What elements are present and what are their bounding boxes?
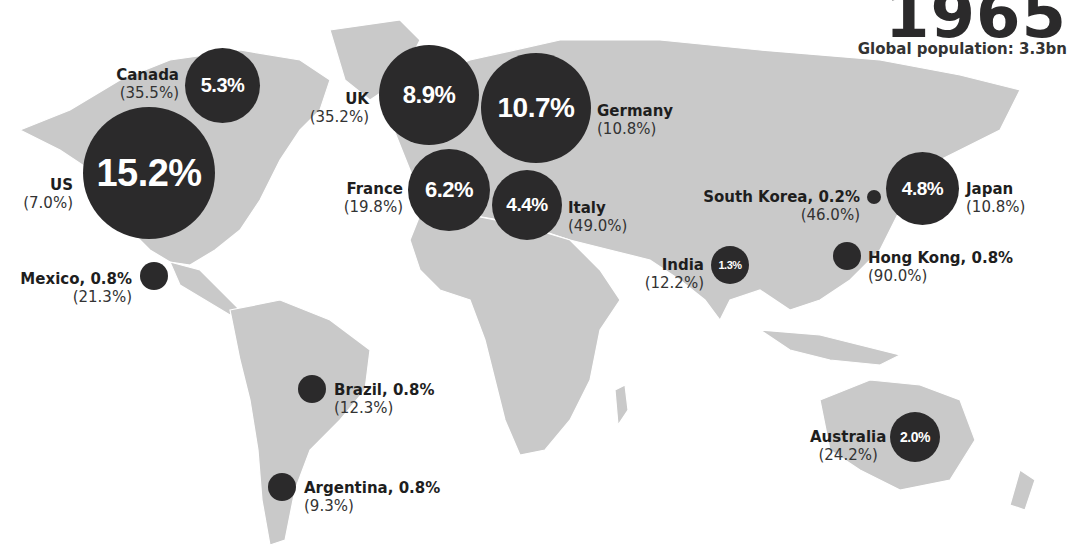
bubble-brazil [298,375,326,403]
country-share: (10.8%) [966,198,1025,216]
label-japan: Japan (10.8%) [966,180,1025,216]
bubble-value: 2.0% [900,429,930,445]
bubble-italy: 4.4% [492,170,562,240]
bubble-value: 5.3% [201,74,245,97]
country-share: (35.2%) [310,108,369,126]
label-australia: Australia (24.2%) [810,428,886,464]
bubble-japan: 4.8% [886,152,959,225]
country-name: Germany [597,102,673,120]
country-share: (9.3%) [304,497,440,515]
label-france: France (19.8%) [344,180,403,216]
central-america-landmass [170,262,240,315]
country-share: (12.3%) [334,399,435,417]
country-share: (90.0%) [868,267,1013,285]
country-share: (12.2%) [645,274,704,292]
africa-landmass [410,215,620,455]
label-us: US (7.0%) [23,176,73,212]
bubble-us: 15.2% [83,107,215,239]
country-name: Mexico, 0.8% [20,270,132,288]
country-share: (46.0%) [703,206,860,224]
country-name: Italy [568,199,627,217]
bubble-uk: 8.9% [379,45,479,145]
country-name: Canada [116,66,179,84]
country-name: South Korea, 0.2% [703,188,860,206]
country-share: (19.8%) [344,198,403,216]
label-india: India (12.2%) [645,256,704,292]
country-name: India [645,256,704,274]
bubble-mexico [140,262,168,290]
country-share: (35.5%) [116,84,179,102]
bubble-australia: 2.0% [890,412,940,462]
label-italy: Italy (49.0%) [568,199,627,235]
label-germany: Germany (10.8%) [597,102,673,138]
bubble-hong-kong [833,242,861,270]
label-mexico: Mexico, 0.8% (21.3%) [20,270,132,306]
bubble-south-korea [867,190,881,204]
bubble-value: 15.2% [96,152,201,195]
country-name: US [23,176,73,194]
country-name: Hong Kong, 0.8% [868,249,1013,267]
label-south-korea: South Korea, 0.2% (46.0%) [703,188,860,224]
label-argentina: Argentina, 0.8% (9.3%) [304,479,440,515]
bubble-germany: 10.7% [481,53,591,163]
country-name: UK [310,90,369,108]
global-population-subtitle: Global population: 3.3bn [858,40,1067,58]
bubble-argentina [268,473,296,501]
country-share: (24.2%) [810,446,886,464]
country-share: (49.0%) [568,217,627,235]
bubble-france: 6.2% [408,149,490,231]
bubble-value: 4.8% [902,178,943,200]
bubble-value: 4.4% [506,194,547,216]
madagascar-landmass [615,385,628,425]
country-share: (10.8%) [597,120,673,138]
country-name: Argentina, 0.8% [304,479,440,497]
bubble-value: 10.7% [498,92,575,124]
bubble-value: 1.3% [718,259,741,271]
indonesia-landmass [760,330,900,365]
bubble-value: 6.2% [425,177,473,203]
country-name: Australia [810,428,886,446]
label-brazil: Brazil, 0.8% (12.3%) [334,381,435,417]
country-name: Brazil, 0.8% [334,381,435,399]
bubble-canada: 5.3% [185,48,260,123]
country-share: (7.0%) [23,194,73,212]
country-name: France [344,180,403,198]
new-zealand-landmass [1010,470,1035,510]
label-canada: Canada (35.5%) [116,66,179,102]
country-share: (21.3%) [20,288,132,306]
label-uk: UK (35.2%) [310,90,369,126]
label-hong-kong: Hong Kong, 0.8% (90.0%) [868,249,1013,285]
bubble-value: 8.9% [403,81,456,109]
country-name: Japan [966,180,1025,198]
bubble-india: 1.3% [711,246,749,284]
